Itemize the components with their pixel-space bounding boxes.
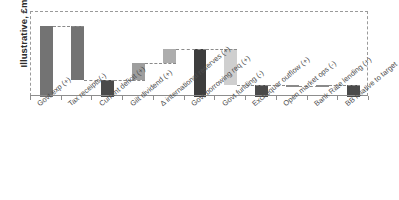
bar-tax-receipts	[71, 26, 84, 80]
x-axis-tick	[30, 96, 31, 100]
waterfall-connector	[145, 63, 176, 64]
x-axis-tick	[91, 96, 92, 100]
waterfall-connector	[176, 49, 207, 50]
x-axis-tick	[307, 96, 308, 100]
y-axis-title: Illustrative, £m	[18, 0, 29, 79]
x-axis-tick	[122, 96, 123, 100]
x-axis-tick	[184, 96, 185, 100]
x-axis-tick	[61, 96, 62, 100]
waterfall-connector	[53, 26, 84, 27]
x-axis-tick	[276, 96, 277, 100]
x-axis-tick	[153, 96, 154, 100]
x-axis-tick	[214, 96, 215, 100]
x-axis-tick	[245, 96, 246, 100]
x-axis-tick	[337, 96, 338, 100]
bar-international-reserves	[163, 49, 176, 63]
x-axis-tick	[368, 96, 369, 100]
bar-govt-exp	[40, 26, 53, 97]
plot-area	[30, 11, 368, 96]
